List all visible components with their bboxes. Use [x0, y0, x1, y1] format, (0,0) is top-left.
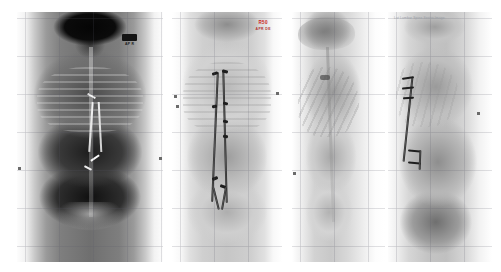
radiograph-panel-4[interactable]: Lat Lumbar Spine Series Image	[388, 12, 492, 262]
radiograph-image-4	[388, 12, 492, 262]
red-marker-text: R50	[258, 20, 268, 25]
edge-marker-left-1	[18, 167, 21, 170]
radiograph-panel-3[interactable]	[292, 12, 385, 262]
red-marker-label-2: R50 APR DE	[256, 20, 271, 32]
orientation-marker-1: AP R	[122, 34, 137, 46]
edge-marker-right-4	[477, 112, 480, 115]
pelvis-region	[43, 202, 136, 242]
pedicle-screw-5	[222, 119, 228, 123]
edge-marker-right-2	[276, 92, 279, 95]
red-marker-subtext: APR DE	[256, 27, 271, 32]
edge-marker-left-2	[174, 95, 177, 98]
soft-tissue-silhouette	[388, 12, 492, 262]
soft-tissue-silhouette	[292, 12, 385, 262]
edge-marker-left-3	[293, 172, 296, 175]
radiograph-panel-2[interactable]: R50 APR DE	[172, 12, 282, 262]
radiograph-image-3	[292, 12, 385, 262]
radiograph-panel-1[interactable]: AP R	[17, 12, 163, 262]
edge-marker-left-2b	[176, 105, 179, 108]
radiograph-viewer: AP R R50 APR DE	[0, 0, 501, 272]
study-header-label: Lat Lumbar Spine Series Image	[394, 16, 445, 20]
pedicle-screw-6	[222, 134, 228, 138]
pedicle-screw-3	[211, 104, 217, 108]
radiopaque-marker	[320, 75, 330, 80]
rib-cage	[396, 62, 458, 127]
orientation-marker-label: AP R	[122, 43, 137, 46]
edge-marker-right-1	[159, 157, 162, 160]
orientation-marker-icon	[122, 34, 137, 41]
radiograph-image-2	[172, 12, 282, 262]
skull-region	[298, 17, 356, 50]
radiograph-image-1	[17, 12, 163, 262]
